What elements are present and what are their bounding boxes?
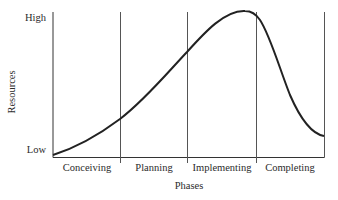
y-tick-low: Low [27,144,47,155]
y-tick-high: High [25,12,47,23]
y-axis-label: Resources [6,70,17,113]
phase-label-planning: Planning [135,162,173,173]
phase-label-completing: Completing [265,162,315,173]
x-axis-label: Phases [175,180,204,191]
chart-canvas: High Low Resources Conceiving Planning I… [0,0,338,200]
phase-label-implementing: Implementing [193,162,253,173]
phase-label-conceiving: Conceiving [63,162,112,173]
resource-curve [53,11,324,155]
resource-lifecycle-chart: High Low Resources Conceiving Planning I… [0,0,338,200]
